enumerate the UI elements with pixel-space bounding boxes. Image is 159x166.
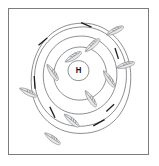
flow-tick-w: [34, 76, 35, 89]
high-pressure-label: H: [76, 66, 82, 75]
wind-barb-group: [18, 24, 135, 147]
weather-map-frame: H: [8, 8, 149, 155]
wind-barb-10: [43, 130, 62, 146]
screenshot-root: H: [0, 0, 159, 166]
flow-tick-ne: [115, 48, 118, 59]
wind-barb-6: [45, 63, 60, 82]
wind-barb-4: [115, 60, 135, 71]
isobar-4: [34, 27, 126, 126]
flow-tick-s: [93, 120, 104, 126]
wind-barb-2: [83, 37, 101, 54]
weather-map-canvas: H: [9, 9, 148, 154]
wind-barb-8: [83, 89, 98, 108]
flow-tick-se: [106, 104, 114, 111]
